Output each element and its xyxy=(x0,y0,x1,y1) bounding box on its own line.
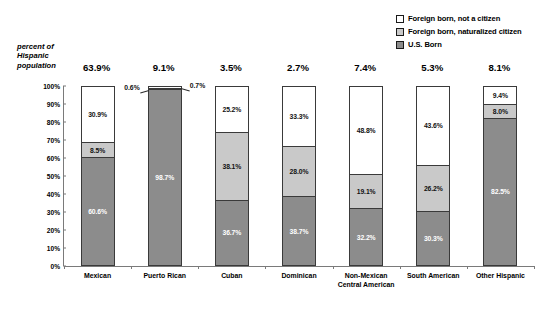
x-axis-line xyxy=(64,266,534,267)
bar-segment-label: 98.7% xyxy=(155,174,174,181)
legend-label-us-born: U.S. Born xyxy=(408,40,442,49)
x-axis-category-label: Other Hispanic xyxy=(467,272,534,302)
bar-segment-label: 38.1% xyxy=(222,163,241,170)
population-share-value: 9.1% xyxy=(130,62,197,76)
bar-segment-label: 26.2% xyxy=(424,185,443,192)
x-axis-category-label: Mexican xyxy=(64,272,131,302)
stacked-bar[interactable]: 48.8%19.1%32.2% xyxy=(349,86,383,266)
y-axis-tick-label: 0% xyxy=(50,263,60,270)
y-axis-tick-label: 10% xyxy=(47,245,60,252)
y-axis-tick-label: 100% xyxy=(43,83,60,90)
x-axis-labels: MexicanPuerto RicanCubanDominicanNon-Mex… xyxy=(64,272,534,302)
bar-segment-label: 33.3% xyxy=(290,113,309,120)
bar-segment-label: 28.0% xyxy=(290,168,309,175)
y-axis-tick-label: 90% xyxy=(47,101,60,108)
x-axis-tick-mark xyxy=(534,266,535,269)
y-axis: 100%90%80%70%60%50%40%30%20%10%0% xyxy=(42,86,64,266)
bar-segment-label: 60.6% xyxy=(88,208,107,215)
bar-segment[interactable]: 30.9% xyxy=(82,87,114,142)
bar-segment-label: 82.5% xyxy=(491,188,510,195)
legend-item-foreign-born-not-citizen: Foreign born, not a citizen xyxy=(396,13,522,24)
y-axis-tick-label: 60% xyxy=(47,155,60,162)
bar-segment[interactable]: 36.7% xyxy=(216,200,248,265)
bar-segment[interactable]: 43.6% xyxy=(417,87,449,165)
legend-swatch-icon-naturalized xyxy=(396,28,404,36)
bar-segment-label: 48.8% xyxy=(357,127,376,134)
bar-segment-label: 32.2% xyxy=(357,234,376,241)
stacked-bar[interactable]: 43.6%26.2%30.3% xyxy=(416,86,450,266)
legend-label-not-citizen: Foreign born, not a citizen xyxy=(408,14,500,23)
bar-segment[interactable]: 30.3% xyxy=(417,211,449,265)
bar-segment-label: 36.7% xyxy=(222,229,241,236)
bar-slot: 30.9%8.5%60.6% xyxy=(64,86,131,266)
axis-caption: percent of Hispanic population xyxy=(17,42,63,70)
bar-segment[interactable]: 33.3% xyxy=(283,87,315,146)
x-axis-category-label: South American xyxy=(400,272,467,302)
stacked-bar[interactable]: 33.3%28.0%38.7% xyxy=(282,86,316,266)
y-axis-tick-label: 20% xyxy=(47,227,60,234)
segment-callout-label: 0.6% xyxy=(124,84,140,91)
callout-leader-line xyxy=(140,90,149,93)
x-axis-tick-mark xyxy=(265,266,266,269)
population-share-value: 2.7% xyxy=(264,62,331,76)
plot-area: 100%90%80%70%60%50%40%30%20%10%0% 30.9%8… xyxy=(42,86,534,266)
stacked-bar[interactable]: 25.2%38.1%36.7% xyxy=(215,86,249,266)
y-axis-tick-label: 50% xyxy=(47,173,60,180)
x-axis-tick-mark xyxy=(400,266,401,269)
bar-segment[interactable]: 32.2% xyxy=(350,208,382,265)
x-axis-category-label: Dominican xyxy=(265,272,332,302)
bar-segment-label: 9.4% xyxy=(493,92,508,99)
population-share-row: 63.9%9.1%3.5%2.7%7.4%5.3%8.1% xyxy=(63,62,533,76)
y-axis-tick-label: 80% xyxy=(47,119,60,126)
x-axis-tick-mark xyxy=(467,266,468,269)
bar-segment[interactable]: 26.2% xyxy=(417,165,449,212)
callout-leader-line xyxy=(181,88,190,91)
bar-slot: 9.4%8.0%82.5% xyxy=(467,86,534,266)
bar-segment[interactable]: 9.4% xyxy=(484,87,516,104)
stacked-bar[interactable]: 0.7%0.6%98.7% xyxy=(148,86,182,266)
population-share-value: 8.1% xyxy=(466,62,533,76)
bar-segment-label: 30.9% xyxy=(88,111,107,118)
population-share-value: 63.9% xyxy=(63,62,130,76)
bar-slot: 0.7%0.6%98.7% xyxy=(131,86,198,266)
bar-segment-label: 43.6% xyxy=(424,122,443,129)
x-axis-category-label: Puerto Rican xyxy=(131,272,198,302)
bar-segment[interactable]: 38.7% xyxy=(283,196,315,265)
legend-label-naturalized: Foreign born, naturalized citizen xyxy=(408,27,522,36)
population-share-value: 5.3% xyxy=(399,62,466,76)
bar-segment[interactable]: 8.0% xyxy=(484,104,516,118)
y-axis-tick-label: 40% xyxy=(47,191,60,198)
bar-segment[interactable]: 60.6% xyxy=(82,157,114,265)
bar-segment-label: 38.7% xyxy=(290,228,309,235)
legend-swatch-icon-not-citizen xyxy=(396,15,404,23)
bar-segment[interactable]: 8.5% xyxy=(82,142,114,157)
population-share-value: 3.5% xyxy=(197,62,264,76)
bar-segment-label: 8.5% xyxy=(90,147,105,154)
legend-item-foreign-born-naturalized: Foreign born, naturalized citizen xyxy=(396,26,522,37)
bar-segment-label: 8.0% xyxy=(493,108,508,115)
y-axis-tick-label: 70% xyxy=(47,137,60,144)
chart-root: Foreign born, not a citizen Foreign born… xyxy=(0,0,546,316)
bar-segment[interactable]: 82.5% xyxy=(484,118,516,265)
bar-segment-label: 19.1% xyxy=(357,188,376,195)
stacked-bar[interactable]: 9.4%8.0%82.5% xyxy=(483,86,517,266)
bar-slot: 43.6%26.2%30.3% xyxy=(400,86,467,266)
bar-segment[interactable]: 38.1% xyxy=(216,132,248,200)
bar-segment[interactable]: 25.2% xyxy=(216,87,248,132)
x-axis-tick-mark xyxy=(198,266,199,269)
population-share-value: 7.4% xyxy=(332,62,399,76)
x-axis-category-label: Cuban xyxy=(198,272,265,302)
bar-segment[interactable]: 98.7% xyxy=(149,89,181,265)
x-axis-tick-mark xyxy=(64,266,65,269)
bar-slot: 25.2%38.1%36.7% xyxy=(198,86,265,266)
bar-segment[interactable]: 19.1% xyxy=(350,174,382,208)
x-axis-category-label: Non-Mexican Central American xyxy=(333,272,400,302)
bar-slot: 48.8%19.1%32.2% xyxy=(333,86,400,266)
bar-segment[interactable]: 28.0% xyxy=(283,146,315,196)
chart-legend: Foreign born, not a citizen Foreign born… xyxy=(396,13,522,50)
bar-slot: 33.3%28.0%38.7% xyxy=(265,86,332,266)
stacked-bar[interactable]: 30.9%8.5%60.6% xyxy=(81,86,115,266)
bar-segment[interactable]: 48.8% xyxy=(350,87,382,174)
bar-group: 30.9%8.5%60.6%0.7%0.6%98.7%25.2%38.1%36.… xyxy=(64,86,534,266)
x-axis-tick-mark xyxy=(131,266,132,269)
